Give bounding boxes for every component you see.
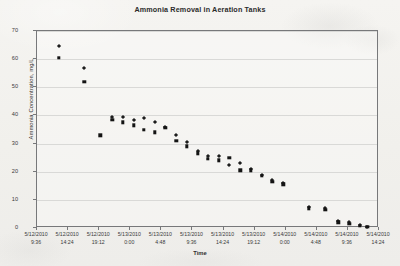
data-point: [142, 128, 145, 131]
data-point: [238, 161, 242, 165]
gridline: [37, 144, 377, 145]
x-tick-mark: [254, 227, 255, 230]
y-axis-title: Ammonia Concentration, mg/L: [28, 24, 34, 174]
y-tick-mark: [33, 58, 36, 59]
y-tick-label: 0: [0, 224, 18, 230]
data-point: [132, 124, 135, 127]
gridline: [37, 115, 377, 116]
data-point: [281, 183, 284, 186]
x-axis-title: Time: [0, 250, 400, 256]
data-point: [217, 154, 221, 158]
y-tick-mark: [33, 143, 36, 144]
x-tick-mark: [223, 227, 224, 230]
data-point: [153, 131, 156, 134]
data-point: [142, 116, 146, 120]
data-point: [185, 145, 188, 148]
data-point: [348, 222, 351, 225]
data-point: [227, 163, 231, 167]
y-tick-label: 70: [0, 27, 18, 33]
gridline: [37, 31, 377, 32]
data-point: [217, 159, 220, 162]
y-tick-label: 10: [0, 196, 18, 202]
data-point: [57, 56, 60, 59]
data-point: [228, 156, 231, 159]
x-tick-mark: [36, 227, 37, 230]
data-point: [324, 208, 327, 211]
data-point: [239, 169, 242, 172]
x-tick-mark: [191, 227, 192, 230]
x-tick-mark: [67, 227, 68, 230]
data-point: [82, 65, 86, 69]
x-tick-mark: [160, 227, 161, 230]
data-point: [57, 44, 61, 48]
y-tick-label: 60: [0, 55, 18, 61]
chart-title: Ammonia Removal in Aeration Tanks: [0, 5, 400, 14]
plot-area: [36, 30, 378, 227]
data-point: [249, 169, 252, 172]
x-tick-mark: [316, 227, 317, 230]
x-tick-mark: [129, 227, 130, 230]
data-point: [260, 174, 263, 177]
data-point: [366, 225, 369, 228]
data-point: [131, 118, 135, 122]
data-point: [110, 118, 113, 121]
data-point: [206, 157, 209, 160]
x-tick-mark: [347, 227, 348, 230]
data-point: [196, 152, 199, 155]
gridline: [37, 87, 377, 88]
y-tick-mark: [33, 171, 36, 172]
gridline: [37, 59, 377, 60]
data-point: [121, 121, 124, 124]
data-point: [358, 224, 361, 227]
data-point: [99, 133, 102, 136]
data-point: [83, 80, 86, 83]
x-tick-mark: [378, 227, 379, 230]
data-point: [164, 126, 167, 129]
data-point: [153, 120, 157, 124]
gridline: [37, 172, 377, 173]
data-point: [175, 139, 178, 142]
data-point: [307, 207, 310, 210]
x-tick-label: 5/14/201014:24: [352, 231, 400, 246]
y-tick-label: 30: [0, 140, 18, 146]
y-tick-label: 20: [0, 168, 18, 174]
gridline: [37, 200, 377, 201]
x-tick-mark: [98, 227, 99, 230]
y-tick-label: 50: [0, 83, 18, 89]
y-tick-mark: [33, 114, 36, 115]
data-point: [270, 180, 273, 183]
data-point: [174, 133, 178, 137]
y-tick-mark: [33, 199, 36, 200]
y-tick-mark: [33, 86, 36, 87]
data-point: [336, 221, 339, 224]
y-tick-mark: [33, 30, 36, 31]
x-tick-mark: [285, 227, 286, 230]
y-tick-label: 40: [0, 111, 18, 117]
data-point: [120, 115, 124, 119]
ammonia-removal-scatter-chart: Ammonia Removal in Aeration Tanks Ammoni…: [0, 0, 400, 266]
